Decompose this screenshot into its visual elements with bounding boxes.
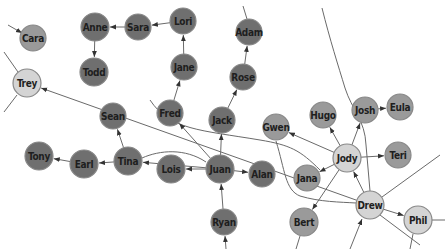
edge-jack-to-rose [228,90,237,109]
node-label: Todd [83,67,106,78]
node-label: Phil [409,215,427,226]
node-label: Tina [118,156,139,167]
edge-jody-to-gwen [289,133,334,153]
node-todd[interactable]: Todd [80,58,108,86]
node-tina[interactable]: Tina [114,147,142,175]
node-label: Sara [127,22,149,33]
node-label: Jana [296,173,318,184]
node-lois[interactable]: Lois [157,155,185,183]
node-label: Rose [231,72,255,83]
node-label: Drew [357,200,382,211]
edge-offscreen-trey-top [4,52,18,72]
node-label: Hugo [310,110,335,121]
edge-jody-to-hugo [330,127,340,146]
node-label: Lois [161,164,180,175]
node-label: Cara [22,33,44,44]
edge-fred-to-jane [174,80,180,100]
node-label: Lori [174,16,192,27]
node-rose[interactable]: Rose [230,64,256,90]
node-tony[interactable]: Tony [25,142,53,170]
edge-offscreen-drew [350,219,362,249]
edge-jody-to-teri [361,156,384,157]
node-label: Earl [75,159,94,170]
node-gwen[interactable]: Gwen [262,114,289,140]
node-eula[interactable]: Eula [387,94,413,120]
node-label: Josh [354,105,375,116]
node-sara[interactable]: Sara [125,14,151,40]
node-label: Jody [336,153,358,164]
node-adam[interactable]: Adam [235,19,263,45]
node-label: Ryan [212,217,236,228]
node-label: Alan [251,169,272,180]
node-label: Anne [83,22,108,33]
node-juan[interactable]: Juan [206,155,234,183]
node-label: Bert [294,217,315,228]
node-trey[interactable]: Trey [13,69,41,97]
edge-juan-to-alan [234,171,248,173]
node-jane[interactable]: Jane [171,54,197,80]
edge-offscreen-adam [243,6,247,19]
node-phil[interactable]: Phil [404,206,432,234]
edge-offscreen-cara [8,25,22,33]
edge-offscreen-trey-bottom [4,95,17,112]
node-anne[interactable]: Anne [81,13,109,41]
node-label: Adam [235,27,263,38]
node-label: Jane [173,62,195,73]
node-label: Trey [17,78,38,89]
node-ryan[interactable]: Ryan [211,209,237,235]
node-teri[interactable]: Teri [385,142,411,168]
edge-lori-to-sara [152,23,170,25]
edge-phil-down [410,234,413,249]
node-jana[interactable]: Jana [294,165,320,191]
node-josh[interactable]: Josh [352,97,378,123]
node-label: Teri [389,150,406,161]
node-label: Fred [159,108,180,119]
network-graph: CaraTreyAnneSaraLoriToddJaneFredAdamRose… [0,0,447,249]
edge-tina-to-sean [117,129,123,147]
edge-offscreen-ryan [225,236,226,249]
edge-offscreen-bert [296,236,300,249]
edge-ryan-to-juan [221,184,223,209]
node-jody[interactable]: Jody [333,144,361,172]
edge-josh-to-eula [378,108,386,109]
node-label: Sean [101,111,125,122]
node-label: Juan [208,164,230,175]
edge-drew-to-jody [354,171,364,192]
node-label: Gwen [262,122,289,133]
node-alan[interactable]: Alan [249,161,275,187]
node-label: Tony [28,151,50,162]
node-jack[interactable]: Jack [209,107,235,133]
edge-tina-to-earl [99,162,114,163]
node-hugo[interactable]: Hugo [310,102,336,128]
node-sean[interactable]: Sean [100,103,126,129]
node-lori[interactable]: Lori [170,8,196,34]
edge-drew-to-phil [383,209,403,215]
edge-rose-to-adam [245,46,247,64]
node-cara[interactable]: Cara [20,25,46,51]
node-label: Jack [211,115,233,126]
node-bert[interactable]: Bert [290,208,318,236]
edge-earl-to-tony [54,159,70,162]
node-earl[interactable]: Earl [70,150,98,178]
edge-jody-to-jana [320,164,335,171]
node-fred[interactable]: Fred [157,100,183,126]
node-drew[interactable]: Drew [356,191,384,219]
node-label: Eula [390,102,411,113]
edge-jody-to-josh [352,123,360,145]
